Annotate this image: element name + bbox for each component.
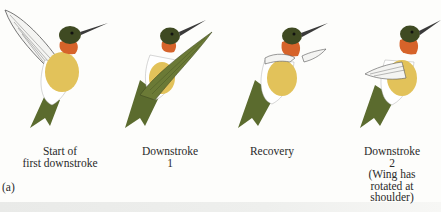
- scan-edge-strip: [0, 202, 441, 212]
- caption-recovery: Recovery: [232, 146, 312, 158]
- caption-downstroke-1: Downstroke 1: [130, 146, 210, 169]
- panel-downstroke-1: Downstroke 1: [110, 0, 220, 190]
- hummingbird-illustration-2: [110, 0, 220, 130]
- panel-recovery: Recovery: [220, 0, 330, 190]
- caption-start-of-first-downstroke: Start of first downstroke: [15, 146, 105, 169]
- hummingbird-illustration-1: [0, 0, 110, 130]
- figure-label: (a): [2, 181, 15, 193]
- caption-downstroke-2: Downstroke 2 (Wing has rotated at should…: [352, 146, 432, 204]
- panel-start-of-first-downstroke: Start of first downstroke: [0, 0, 110, 190]
- panel-downstroke-2: Downstroke 2 (Wing has rotated at should…: [330, 0, 441, 202]
- hummingbird-illustration-3: [220, 0, 330, 130]
- hummingbird-illustration-4: [330, 0, 441, 130]
